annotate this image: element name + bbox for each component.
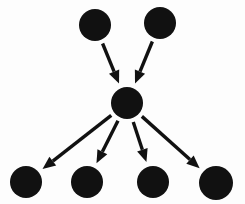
arrowhead-icon bbox=[137, 148, 147, 162]
graph-edge bbox=[103, 44, 115, 72]
graph-node bbox=[79, 9, 111, 41]
arrowhead-icon bbox=[135, 69, 145, 83]
graph-svg bbox=[0, 0, 245, 204]
graph-node bbox=[111, 87, 143, 119]
graph-node bbox=[71, 166, 103, 198]
graph-edge bbox=[133, 122, 142, 150]
diagram-canvas: Hub and spoke directed node graph bbox=[0, 0, 245, 204]
graph-edge bbox=[140, 41, 152, 71]
graph-edge bbox=[102, 121, 118, 152]
graph-node bbox=[199, 166, 233, 200]
arrowhead-icon bbox=[109, 69, 119, 83]
node-layer bbox=[10, 7, 233, 200]
graph-node bbox=[144, 7, 176, 39]
graph-edge bbox=[142, 116, 190, 159]
graph-node bbox=[137, 166, 169, 198]
graph-node bbox=[10, 166, 42, 198]
